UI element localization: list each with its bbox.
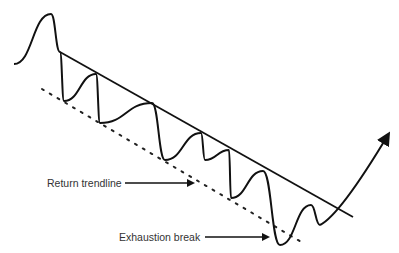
- breakout-arrow-icon: [320, 135, 388, 225]
- price-path: [14, 14, 320, 245]
- main-trendline: [60, 52, 353, 217]
- return-trendline-label: Return trendline: [47, 177, 122, 189]
- channel-diagram: [0, 0, 399, 253]
- exhaustion-break-label: Exhaustion break: [119, 231, 200, 243]
